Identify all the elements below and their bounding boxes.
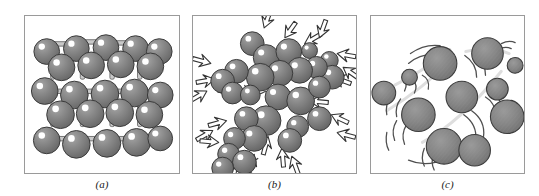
gas-particle	[426, 129, 462, 165]
gas-particle	[486, 78, 508, 100]
three-states-of-matter-figure: (a) (b) (c)	[0, 0, 539, 196]
gas-particle	[459, 134, 491, 166]
solid-lattice-illustration	[25, 16, 179, 173]
caption-panel-c: (c)	[370, 178, 525, 190]
gas-particle	[507, 57, 523, 73]
panel-liquid	[192, 15, 357, 174]
panel-solid	[24, 15, 180, 174]
gas-particle	[402, 69, 418, 85]
gas-particles	[372, 38, 524, 166]
gas-illustration	[371, 16, 524, 173]
gas-particle	[446, 81, 478, 113]
gas-particle	[402, 98, 436, 132]
gas-particle	[472, 38, 504, 70]
caption-panel-b: (b)	[192, 178, 357, 190]
gas-particle	[372, 81, 396, 105]
lattice-atoms-front	[33, 126, 172, 158]
panel-gas	[370, 15, 525, 174]
gas-particle	[490, 100, 524, 134]
liquid-illustration	[193, 16, 356, 173]
caption-panel-a: (a)	[24, 178, 180, 190]
gas-particle	[423, 47, 457, 81]
